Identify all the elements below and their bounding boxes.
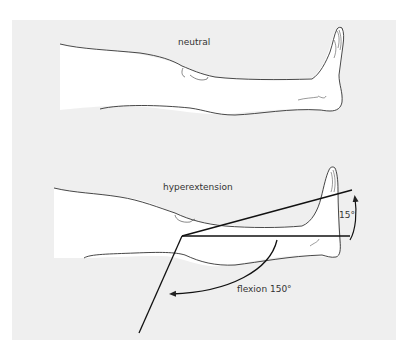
knee-range-of-motion-diagram — [0, 0, 403, 355]
hyperextension-label: hyperextension — [163, 183, 233, 192]
flexion-angle-label: flexion 150° — [237, 285, 292, 294]
neutral-label: neutral — [178, 38, 210, 47]
hyperextension-angle-label: 15° — [339, 211, 355, 220]
